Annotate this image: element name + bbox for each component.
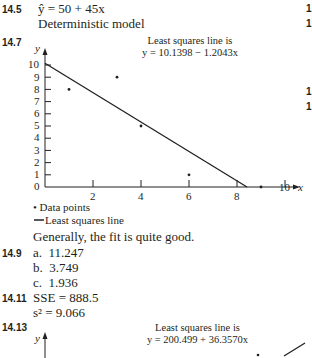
chart-caption-14-13: Least squares line is y = 200.499 + 36.3…: [125, 322, 270, 346]
y-axis-label-14-13: y: [35, 332, 40, 345]
part-b-value: 3.749: [49, 260, 78, 275]
edge-marker: 1: [306, 3, 312, 14]
edge-marker: 1: [306, 101, 312, 112]
fit-comment: Generally, the fit is quite good.: [33, 229, 194, 244]
data-points: [68, 76, 263, 189]
part-a-value: 11.247: [49, 245, 84, 260]
edge-marker: 1: [306, 18, 312, 29]
edge-marker: 1: [306, 86, 312, 97]
answer-number-14-9: 14.9: [2, 248, 21, 259]
legend-least-squares-line: Least squares line: [45, 214, 124, 227]
answer-number-14-13: 14.13: [2, 322, 27, 333]
variance-estimate: s² = 9.066: [33, 305, 85, 320]
y-axis-label: y: [35, 42, 40, 55]
legend-data-points: • Data points: [33, 201, 90, 214]
least-squares-line: [45, 63, 247, 187]
x-axis-label: x: [298, 181, 303, 194]
sse-value: SSE = 888.5: [33, 290, 98, 305]
part-c-value: 1.936: [49, 275, 78, 290]
answer-number-14-11: 14.11: [2, 293, 26, 304]
